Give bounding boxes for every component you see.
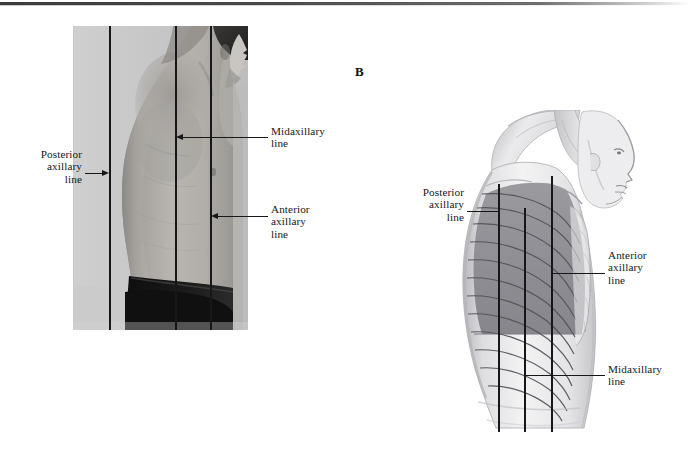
leader-posterior-axillary-a	[85, 173, 102, 174]
anterior-axillary-line-b	[551, 176, 553, 432]
panel-a-photograph	[73, 26, 248, 330]
label-posterior-axillary-line-a: Posterior axillary line	[16, 148, 82, 185]
label-line-3: line	[608, 274, 688, 286]
arrowhead-posterior-axillary-a	[102, 170, 109, 176]
label-line-1: Anterior	[271, 203, 351, 215]
label-posterior-axillary-line-b: Posterior axillary line	[402, 186, 464, 223]
label-line-1: Posterior	[402, 186, 464, 198]
label-line-2: axillary	[271, 215, 351, 227]
leader-anterior-axillary-a	[218, 216, 268, 217]
label-line-2: axillary	[16, 160, 82, 172]
label-line-1: Midaxillary	[271, 125, 351, 137]
midaxillary-line-a	[175, 26, 177, 330]
midaxillary-line-b	[524, 208, 526, 432]
arrowhead-anterior-axillary-a	[211, 213, 218, 219]
label-line-2: line	[271, 137, 351, 149]
leader-anterior-axillary-b	[552, 273, 605, 274]
figure-root: Posterior axillary line Midaxillary line…	[0, 0, 690, 463]
panel-b-letter: B	[355, 64, 364, 80]
label-line-3: line	[16, 173, 82, 185]
photograph-image	[73, 26, 248, 330]
label-line-1: Posterior	[16, 148, 82, 160]
label-line-3: line	[402, 211, 464, 223]
leader-midaxillary-b	[525, 375, 605, 376]
posterior-axillary-line-b	[498, 184, 500, 432]
label-line-2: axillary	[608, 261, 688, 273]
label-line-1: Anterior	[608, 249, 688, 261]
label-midaxillary-line-b: Midaxillary line	[608, 363, 690, 388]
label-line-3: line	[271, 228, 351, 240]
label-anterior-axillary-line-a: Anterior axillary line	[271, 203, 351, 240]
label-line-2: line	[608, 375, 690, 387]
label-line-2: axillary	[402, 198, 464, 210]
leader-midaxillary-a	[183, 137, 268, 138]
leader-posterior-axillary-b	[467, 211, 499, 212]
label-line-1: Midaxillary	[608, 363, 690, 375]
arrowhead-midaxillary-a	[176, 134, 183, 140]
photograph-svg	[73, 26, 248, 330]
scan-artifact-bar-2	[0, 5, 690, 6]
label-anterior-axillary-line-b: Anterior axillary line	[608, 249, 688, 286]
anterior-axillary-line-a	[210, 26, 212, 330]
label-midaxillary-line-a: Midaxillary line	[271, 125, 351, 150]
posterior-axillary-line-a	[109, 26, 111, 330]
